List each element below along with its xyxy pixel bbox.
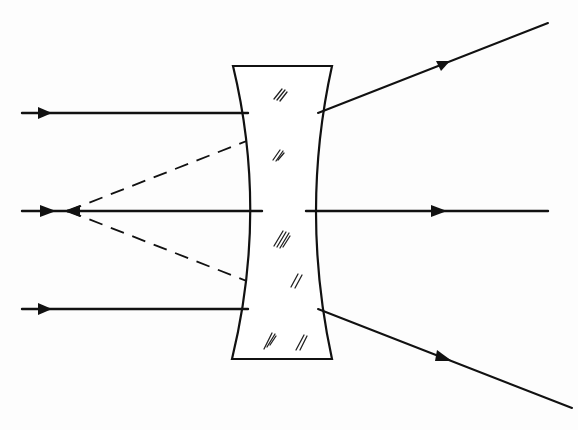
arrow-right-icon [38, 107, 52, 119]
diverging-lens-diagram [0, 0, 578, 430]
refracted-rays [306, 23, 572, 408]
virtual-focal-point [67, 210, 70, 213]
arrow-left-icon [64, 205, 80, 217]
arrow-right-icon [38, 303, 52, 315]
concave-lens [232, 66, 332, 359]
arrow-right-icon [431, 205, 447, 217]
refracted-ray-top [318, 23, 548, 113]
arrow-downright-icon [435, 350, 452, 361]
diagram-canvas [0, 0, 578, 430]
arrow-right-icon [40, 205, 56, 217]
incident-rays [22, 107, 262, 315]
